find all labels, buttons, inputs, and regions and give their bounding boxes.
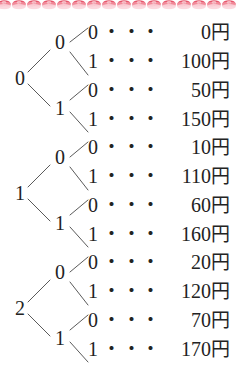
leaf-row: 1 ・・・・・・・ 150 円: [88, 105, 234, 133]
leaf-dot-leader: ・・・・・・・: [101, 282, 159, 301]
leaf-bit: 0: [88, 310, 101, 330]
tree-root-node-0: 0: [12, 68, 28, 88]
leaf-bit: 0: [88, 22, 101, 42]
tree-branch-node-0-0: 0: [52, 32, 68, 52]
leaf-currency-unit: 円: [211, 311, 234, 330]
leaf-amount: 50: [159, 80, 211, 100]
leaf-currency-unit: 円: [211, 225, 234, 244]
leaf-dot-leader: ・・・・・・: [101, 81, 159, 100]
tree-branch-node-2-1: 1: [52, 328, 68, 348]
leaf-dot-leader: ・・・・・・・・・・: [101, 23, 159, 42]
leaf-dot-leader: ・・・・・・・: [101, 340, 159, 359]
leaf-row: 1 ・・・・・・・ 120 円: [88, 277, 234, 305]
payout-tree-diagram: 0 0 1 0 ・・・・・・・・・・ 0 円 1 ・・・・・・・ 100 円 0…: [0, 0, 238, 387]
leaf-row: 0 ・・・・・・ 10 円: [88, 133, 234, 161]
leaf-currency-unit: 円: [211, 167, 234, 186]
leaf-bit: 0: [88, 252, 101, 272]
leaf-dot-leader: ・・・・・・・: [101, 225, 159, 244]
tree-branch-node-0-1: 1: [52, 98, 68, 118]
leaf-bit: 1: [88, 166, 101, 186]
tree-root-node-2: 2: [12, 298, 28, 318]
leaf-currency-unit: 円: [211, 138, 234, 157]
leaf-row: 1 ・・・・・・・ 160 円: [88, 220, 234, 248]
leaf-amount: 150: [159, 109, 211, 129]
leaf-row: 0 ・・・・・・ 70 円: [88, 306, 234, 334]
leaf-amount: 60: [159, 195, 211, 215]
leaf-row: 1 ・・・・・・・ 170 円: [88, 335, 234, 363]
leaf-bit: 1: [88, 224, 101, 244]
leaf-bit: 1: [88, 51, 101, 71]
leaf-dot-leader: ・・・・・・: [101, 138, 159, 157]
tree-branch-node-1-0: 0: [52, 147, 68, 167]
leaf-bit: 0: [88, 195, 101, 215]
leaf-row: 0 ・・・・・・ 60 円: [88, 191, 234, 219]
leaf-row: 1 ・・・・・・・ 100 円: [88, 47, 234, 75]
leaf-currency-unit: 円: [211, 52, 234, 71]
leaf-bit: 0: [88, 80, 101, 100]
leaf-row: 0 ・・・・・・ 50 円: [88, 76, 234, 104]
leaf-dot-leader: ・・・・・・・: [101, 110, 159, 129]
leaf-bit: 0: [88, 137, 101, 157]
leaf-dot-leader: ・・・・・・: [101, 311, 159, 330]
leaf-amount: 70: [159, 310, 211, 330]
leaf-row: 1 ・・・・・・・ 110 円: [88, 162, 234, 190]
leaf-dot-leader: ・・・・・・: [101, 253, 159, 272]
leaf-dot-leader: ・・・・・・: [101, 196, 159, 215]
leaf-currency-unit: 円: [211, 110, 234, 129]
leaf-amount: 160: [159, 224, 211, 244]
tree-root-node-1: 1: [12, 183, 28, 203]
leaf-currency-unit: 円: [211, 282, 234, 301]
leaf-amount: 120: [159, 281, 211, 301]
leaf-currency-unit: 円: [211, 23, 234, 42]
leaf-bit: 1: [88, 109, 101, 129]
leaf-dot-leader: ・・・・・・・: [101, 52, 159, 71]
leaf-amount: 0: [159, 22, 211, 42]
tree-branch-node-2-0: 0: [52, 262, 68, 282]
leaf-currency-unit: 円: [211, 81, 234, 100]
leaf-row: 0 ・・・・・・ 20 円: [88, 248, 234, 276]
leaf-currency-unit: 円: [211, 253, 234, 272]
leaf-bit: 1: [88, 339, 101, 359]
leaf-amount: 110: [159, 166, 211, 186]
leaf-currency-unit: 円: [211, 340, 234, 359]
leaf-row: 0 ・・・・・・・・・・ 0 円: [88, 18, 234, 46]
leaf-amount: 170: [159, 339, 211, 359]
leaf-dot-leader: ・・・・・・・: [101, 167, 159, 186]
leaf-amount: 20: [159, 252, 211, 272]
leaf-amount: 10: [159, 137, 211, 157]
leaf-amount: 100: [159, 51, 211, 71]
leaf-bit: 1: [88, 281, 101, 301]
leaf-currency-unit: 円: [211, 196, 234, 215]
tree-branch-node-1-1: 1: [52, 213, 68, 233]
